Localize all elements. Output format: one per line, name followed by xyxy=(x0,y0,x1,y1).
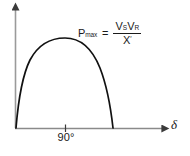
formula-equals-sign: = xyxy=(102,28,108,39)
x-axis-tick-label-90: 90° xyxy=(50,131,82,143)
x-axis-label-delta: δ xyxy=(171,117,177,133)
formula-symbol-x: X xyxy=(123,35,130,46)
formula-denominator: X′ xyxy=(121,34,134,46)
formula-prime-mark: ′ xyxy=(130,35,131,42)
formula-numerator: VSVR xyxy=(113,21,141,33)
formula-subscript-r: R xyxy=(135,25,140,32)
power-angle-diagram: 90° δ Pmax = VSVR X′ xyxy=(0,0,190,156)
formula-subscript-max: max xyxy=(85,32,97,39)
formula-fraction: VSVR X′ xyxy=(113,21,141,46)
formula-symbol-p: P xyxy=(78,28,85,39)
power-angle-curve xyxy=(16,38,113,128)
formula-symbol-vs: V xyxy=(115,21,122,32)
pmax-formula-annotation: Pmax = VSVR X′ xyxy=(78,21,141,46)
formula-left-hand-side: Pmax xyxy=(78,28,97,39)
formula-symbol-vr: V xyxy=(127,21,134,32)
